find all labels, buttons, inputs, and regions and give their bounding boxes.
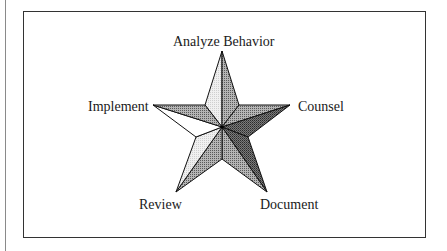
point-label-bottom-left: Review <box>139 198 182 212</box>
point-label-bottom-right: Document <box>260 198 318 212</box>
point-label-top: Analyze Behavior <box>173 35 274 49</box>
point-label-right: Counsel <box>298 100 344 114</box>
point-label-left: Implement <box>88 100 149 114</box>
